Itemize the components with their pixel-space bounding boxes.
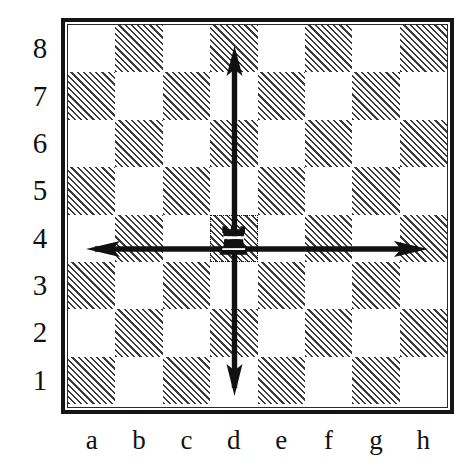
board-square-a8[interactable] [68,25,115,72]
board-square-e7[interactable] [258,72,305,119]
board-square-h7[interactable] [400,72,447,119]
file-label-f: f [305,418,352,462]
board-square-d6[interactable] [210,120,257,167]
board-square-d3[interactable] [210,262,257,309]
board-square-d2[interactable] [210,309,257,356]
board-square-g7[interactable] [352,72,399,119]
board-square-h6[interactable] [400,120,447,167]
file-label-row: a b c d e f g h [68,418,447,462]
board-square-c7[interactable] [163,72,210,119]
rank-label-6: 6 [18,120,62,167]
board-square-e2[interactable] [258,309,305,356]
rank-label-8: 8 [18,25,62,72]
file-label-e: e [258,418,305,462]
board-square-a4[interactable] [68,215,115,262]
board-square-c3[interactable] [163,262,210,309]
board-square-e8[interactable] [258,25,305,72]
board-square-e5[interactable] [258,167,305,214]
board-square-d1[interactable] [210,357,257,404]
board-square-f4[interactable] [305,215,352,262]
board-square-d4[interactable] [210,215,257,262]
board-square-a6[interactable] [68,120,115,167]
board-square-g6[interactable] [352,120,399,167]
board-square-d5[interactable] [210,167,257,214]
board-square-c1[interactable] [163,357,210,404]
board-square-a7[interactable] [68,72,115,119]
board-square-h3[interactable] [400,262,447,309]
board-square-g8[interactable] [352,25,399,72]
rank-label-1: 1 [18,357,62,404]
file-label-d: d [210,418,257,462]
board-square-g5[interactable] [352,167,399,214]
board-square-c8[interactable] [163,25,210,72]
board-square-h8[interactable] [400,25,447,72]
board-square-b1[interactable] [115,357,162,404]
rank-label-4: 4 [18,215,62,262]
board-square-h5[interactable] [400,167,447,214]
rank-label-7: 7 [18,72,62,119]
board-square-b5[interactable] [115,167,162,214]
board-square-g3[interactable] [352,262,399,309]
board-square-e1[interactable] [258,357,305,404]
board-square-b4[interactable] [115,215,162,262]
rook-movement-diagram: 8 7 6 5 4 3 2 1 [0,0,468,470]
board-square-c6[interactable] [163,120,210,167]
file-label-b: b [115,418,162,462]
rank-label-3: 3 [18,262,62,309]
rank-label-2: 2 [18,309,62,356]
file-label-g: g [352,418,399,462]
board-square-c2[interactable] [163,309,210,356]
board-square-g4[interactable] [352,215,399,262]
board-square-h1[interactable] [400,357,447,404]
board-square-b3[interactable] [115,262,162,309]
board-square-f5[interactable] [305,167,352,214]
board-square-a5[interactable] [68,167,115,214]
board-square-f7[interactable] [305,72,352,119]
board-square-e3[interactable] [258,262,305,309]
board-square-c4[interactable] [163,215,210,262]
board-square-e6[interactable] [258,120,305,167]
board-square-f8[interactable] [305,25,352,72]
board-square-f6[interactable] [305,120,352,167]
board-square-b2[interactable] [115,309,162,356]
board-square-b6[interactable] [115,120,162,167]
rank-label-5: 5 [18,167,62,214]
board-square-f2[interactable] [305,309,352,356]
board-square-d7[interactable] [210,72,257,119]
board-square-h4[interactable] [400,215,447,262]
file-label-a: a [68,418,115,462]
chessboard-grid [68,25,447,404]
board-square-a3[interactable] [68,262,115,309]
file-label-c: c [163,418,210,462]
board-square-d8[interactable] [210,25,257,72]
board-square-e4[interactable] [258,215,305,262]
board-square-g2[interactable] [352,309,399,356]
board-square-c5[interactable] [163,167,210,214]
board-square-g1[interactable] [352,357,399,404]
board-square-f3[interactable] [305,262,352,309]
board-square-b8[interactable] [115,25,162,72]
file-label-h: h [400,418,447,462]
board-square-h2[interactable] [400,309,447,356]
board-square-a2[interactable] [68,309,115,356]
board-square-f1[interactable] [305,357,352,404]
board-square-a1[interactable] [68,357,115,404]
rank-label-column: 8 7 6 5 4 3 2 1 [18,25,62,404]
board-square-b7[interactable] [115,72,162,119]
